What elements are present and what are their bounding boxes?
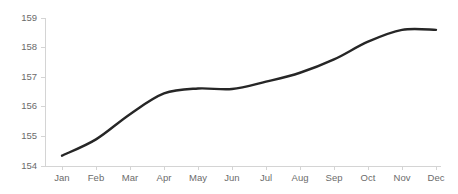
y-tick-label: 156	[21, 100, 37, 111]
y-tick-label: 157	[21, 71, 37, 82]
x-tick-label: Oct	[361, 172, 376, 183]
y-tick-label: 154	[21, 160, 37, 171]
x-tick-label: Aug	[292, 172, 309, 183]
y-tick-label: 155	[21, 130, 37, 141]
x-tick-label: Dec	[428, 172, 445, 183]
x-tick-label: Jun	[224, 172, 239, 183]
x-tick-label: May	[189, 172, 207, 183]
y-axis: 154155156157158159	[21, 12, 45, 171]
data-series-group	[62, 29, 436, 156]
chart-canvas: 154155156157158159 JanFebMarAprMayJunJul…	[0, 0, 458, 194]
data-line-series-0	[62, 29, 436, 156]
x-tick-label: Mar	[122, 172, 138, 183]
x-tick-label: Jan	[54, 172, 69, 183]
y-tick-label: 159	[21, 12, 37, 23]
x-tick-label: Jul	[260, 172, 272, 183]
x-tick-label: Sep	[326, 172, 343, 183]
line-chart: 154155156157158159 JanFebMarAprMayJunJul…	[0, 0, 458, 194]
x-tick-label: Feb	[88, 172, 104, 183]
x-tick-label: Nov	[394, 172, 411, 183]
y-tick-label: 158	[21, 41, 37, 52]
x-axis: JanFebMarAprMayJunJulAugSepOctNovDec	[45, 166, 445, 183]
x-tick-label: Apr	[157, 172, 172, 183]
